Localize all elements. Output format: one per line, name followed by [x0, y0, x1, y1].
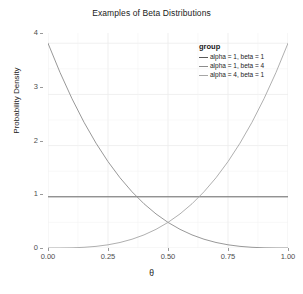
legend-item-label: alpha = 1, beta = 4	[210, 62, 264, 70]
legend-key-line-icon	[199, 72, 208, 79]
legend-key-line-icon	[199, 63, 208, 70]
x-tick-label: 1.00	[268, 252, 303, 261]
chart-figure: Examples of Beta Distributions Probabili…	[0, 0, 303, 294]
x-tick-label: 0.00	[28, 252, 68, 261]
legend-item[interactable]: alpha = 1, beta = 1	[199, 53, 287, 61]
x-tick-mark	[228, 248, 229, 251]
x-tick-label: 0.75	[208, 252, 248, 261]
legend-item-label: alpha = 4, beta = 1	[210, 71, 264, 79]
legend-item[interactable]: alpha = 4, beta = 1	[199, 71, 287, 79]
legend: group alpha = 1, beta = 1alpha = 1, beta…	[199, 42, 287, 80]
x-axis-title: θ	[0, 268, 303, 278]
legend-items: alpha = 1, beta = 1alpha = 1, beta = 4al…	[199, 53, 287, 79]
x-tick-mark	[168, 248, 169, 251]
x-tick-mark	[108, 248, 109, 251]
legend-key-line-icon	[199, 54, 208, 61]
x-tick-mark	[288, 248, 289, 251]
x-tick-label: 0.25	[88, 252, 128, 261]
x-tick-label: 0.50	[148, 252, 188, 261]
x-tick-mark	[48, 248, 49, 251]
legend-title: group	[199, 42, 287, 51]
legend-item-label: alpha = 1, beta = 1	[210, 53, 264, 61]
legend-item[interactable]: alpha = 1, beta = 4	[199, 62, 287, 70]
